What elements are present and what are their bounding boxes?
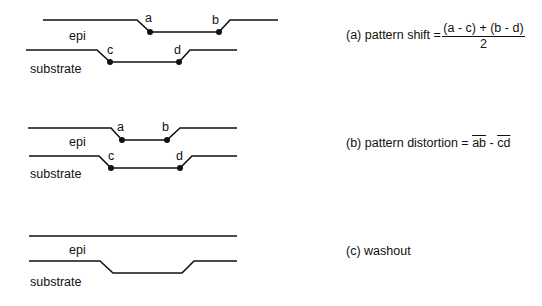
point-a-dot	[119, 137, 125, 143]
point-label-d: d	[176, 149, 183, 163]
point-b-dot	[164, 137, 170, 143]
caption-prefix: (a) pattern shift =	[346, 28, 441, 42]
segment-ab: ab	[472, 136, 486, 150]
layer-label-epi: epi	[69, 243, 86, 257]
segment-cd: cd	[497, 136, 510, 150]
fraction: (a - c) + (b - d) 2	[442, 21, 524, 51]
panel-a-substrate-line	[26, 50, 237, 62]
point-label-a: a	[117, 120, 124, 134]
fraction-denominator: 2	[442, 37, 524, 51]
point-d-dot	[176, 59, 182, 65]
panel-c-substrate-line	[29, 261, 237, 273]
point-c-dot	[107, 59, 113, 65]
point-label-b: b	[162, 120, 169, 134]
caption-prefix: (b) pattern distortion =	[346, 136, 469, 150]
point-d-dot	[177, 165, 183, 171]
fraction-numerator: (a - c) + (b - d)	[442, 21, 524, 37]
point-label-b: b	[212, 13, 219, 27]
caption-pattern-distortion: (b) pattern distortion = ab - cd	[346, 136, 510, 150]
layer-label-epi: epi	[69, 135, 86, 149]
point-label-d: d	[174, 43, 181, 57]
point-c-dot	[108, 165, 114, 171]
point-b-dot	[216, 29, 222, 35]
layer-label-substrate: substrate	[30, 62, 81, 76]
layer-label-substrate: substrate	[30, 167, 81, 181]
panel-b-epi-line	[28, 128, 237, 140]
point-label-a: a	[145, 11, 152, 25]
point-label-c: c	[108, 149, 114, 163]
caption-washout: (c) washout	[346, 244, 411, 258]
layer-label-substrate: substrate	[30, 275, 81, 289]
layer-label-epi: epi	[69, 29, 86, 43]
caption-pattern-shift: (a) pattern shift = (a - c) + (b - d) 2	[346, 21, 525, 51]
point-a-dot	[147, 29, 153, 35]
point-label-c: c	[107, 43, 113, 57]
minus-sign: -	[486, 136, 497, 150]
